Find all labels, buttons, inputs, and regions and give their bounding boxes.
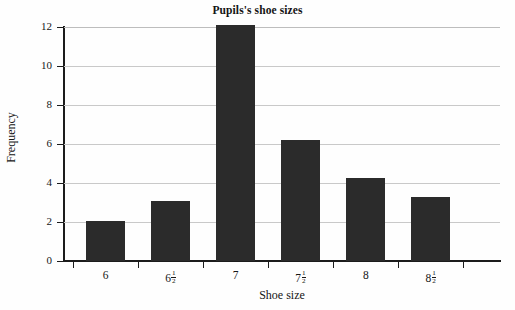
gridline <box>64 66 500 67</box>
gridline <box>64 105 500 106</box>
y-axis-tick-label: 0 <box>0 255 52 266</box>
y-axis-tick <box>57 183 64 184</box>
y-axis-tick <box>57 27 64 28</box>
y-axis-tick-label: 2 <box>0 216 52 227</box>
y-axis-tick-label: 4 <box>0 177 52 188</box>
gridline <box>64 27 500 28</box>
y-axis-tick <box>57 66 64 67</box>
y-axis-tick <box>57 261 64 262</box>
bar <box>346 178 385 261</box>
x-axis-title: Shoe size <box>64 288 500 303</box>
chart-title: Pupils's shoe sizes <box>0 4 515 16</box>
x-axis-tick <box>398 261 399 268</box>
bar <box>151 201 190 261</box>
x-axis-tick <box>203 261 204 268</box>
y-axis-tick-label: 10 <box>0 60 52 71</box>
x-axis-tick <box>333 261 334 268</box>
bar <box>411 197 450 261</box>
y-axis-tick-label: 8 <box>0 99 52 110</box>
y-axis-tick <box>57 144 64 145</box>
chart-screenshot: Pupils's shoe sizes Frequency 024681012 … <box>0 0 515 310</box>
bar <box>86 221 125 261</box>
x-axis-tick <box>463 261 464 268</box>
x-axis-tick <box>73 261 74 268</box>
bar <box>216 25 255 261</box>
plot-area <box>64 27 500 261</box>
y-axis-tick-label: 12 <box>0 21 52 32</box>
bar <box>281 140 320 261</box>
x-axis-tick-label: 812 <box>391 270 471 285</box>
y-axis-tick <box>57 222 64 223</box>
x-axis-tick <box>138 261 139 268</box>
y-axis-tick-label: 6 <box>0 138 52 149</box>
x-axis-tick <box>268 261 269 268</box>
y-axis-tick <box>57 105 64 106</box>
